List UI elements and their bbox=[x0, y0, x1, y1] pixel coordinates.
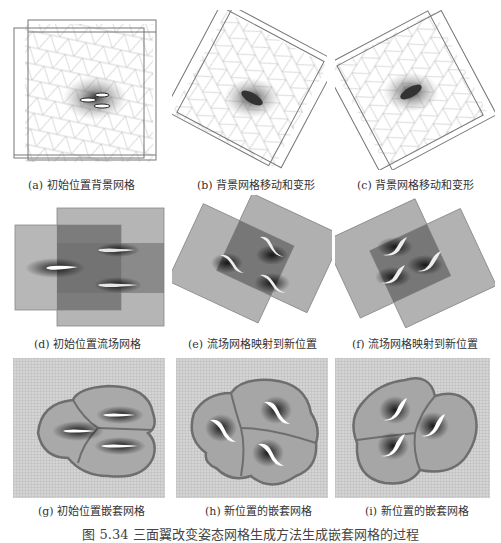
figure-caption: 图 5.34 三面翼改变姿态网格生成方法生成嵌套网格的过程 bbox=[0, 524, 501, 543]
caption-a: (a) 初始位置背景网格 bbox=[28, 176, 135, 192]
panel-c-moved-background-mesh bbox=[335, 10, 495, 170]
mesh-image-h bbox=[176, 358, 328, 498]
caption-e: (e) 流场网格映射到新位置 bbox=[188, 335, 317, 351]
caption-d: (d) 初始位置流场网格 bbox=[34, 335, 141, 351]
panel-e-mapped-flow-field-mesh bbox=[172, 195, 332, 330]
caption-h: (h) 新位置的嵌套网格 bbox=[205, 502, 312, 518]
panel-f-mapped-flow-field-mesh bbox=[335, 195, 495, 330]
mesh-image-e bbox=[172, 195, 332, 330]
mesh-image-d bbox=[10, 200, 165, 330]
caption-i: (i) 新位置的嵌套网格 bbox=[365, 502, 469, 518]
caption-c: (c) 背景网格移动和变形 bbox=[357, 176, 474, 192]
mesh-image-a bbox=[10, 10, 160, 165]
mesh-image-c bbox=[335, 10, 495, 170]
panel-i-overset-mesh-new-position bbox=[335, 358, 490, 498]
caption-f: (f) 流场网格映射到新位置 bbox=[352, 335, 478, 351]
mesh-image-b bbox=[172, 10, 327, 170]
mesh-image-g bbox=[13, 358, 165, 498]
panel-b-moved-background-mesh bbox=[172, 10, 327, 170]
caption-b: (b) 背景网格移动和变形 bbox=[197, 176, 315, 192]
caption-g: (g) 初始位置嵌套网格 bbox=[38, 502, 145, 518]
panel-g-overset-mesh bbox=[13, 358, 165, 498]
panel-a-background-mesh bbox=[10, 10, 160, 165]
mesh-image-f bbox=[335, 195, 495, 330]
panel-h-overset-mesh-new-position bbox=[176, 358, 328, 498]
mesh-image-i bbox=[335, 358, 490, 498]
panel-d-flow-field-mesh bbox=[10, 200, 165, 330]
